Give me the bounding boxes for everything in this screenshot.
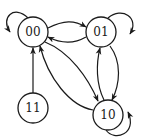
node-10-label: 10 xyxy=(100,108,115,122)
node-11: 11 xyxy=(18,93,48,123)
edge-00-10 xyxy=(45,42,98,101)
node-01: 01 xyxy=(86,17,116,47)
edge-01-00 xyxy=(48,37,86,42)
node-10: 10 xyxy=(93,100,123,130)
edge-10-01 xyxy=(97,48,104,100)
node-00-label: 00 xyxy=(25,25,40,39)
node-11-label: 11 xyxy=(25,101,40,115)
node-00: 00 xyxy=(18,17,48,47)
edge-01-10 xyxy=(110,46,119,100)
state-diagram: 00 01 10 11 xyxy=(0,0,143,139)
node-01-label: 01 xyxy=(93,25,108,39)
edge-00-01 xyxy=(48,22,86,28)
